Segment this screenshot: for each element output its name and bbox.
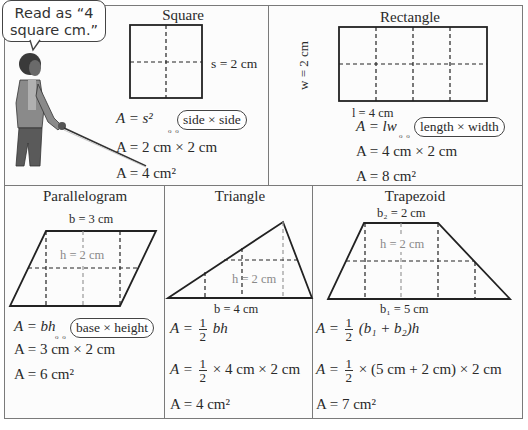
triangle-base-label: b = 4 cm — [214, 302, 258, 317]
trapezoid-substitution-prefix: A = — [316, 361, 339, 377]
one-half-fraction: 12 — [345, 316, 354, 343]
thought-dots-icon: o o — [168, 127, 180, 135]
trapezoid-formula-prefix: A = — [316, 320, 339, 336]
square-title: Square — [128, 7, 238, 24]
triangle-substitution: A = 12 × 4 cm × 2 cm — [170, 357, 300, 384]
rectangle-title: Rectangle — [340, 9, 480, 26]
one-half-fraction: 12 — [199, 316, 208, 343]
triangle-height-label: h = 2 cm — [232, 272, 276, 287]
bottom-column-divider-1 — [164, 185, 165, 419]
parallelogram-result: A = 6 cm² — [14, 366, 74, 383]
rectangle-result: A = 8 cm² — [356, 168, 416, 185]
square-side-label: s = 2 cm — [211, 56, 257, 72]
square-thought-cloud: side × side — [177, 110, 247, 130]
trapezoid-result: A = 7 cm² — [316, 396, 376, 413]
thought-dots-icon: o o — [399, 132, 411, 140]
parallelogram-substitution: A = 3 cm × 2 cm — [14, 341, 115, 358]
fraction-numerator: 1 — [199, 357, 208, 371]
trapezoid-title: Trapezoid — [350, 188, 480, 205]
triangle-substitution-suffix: × 4 cm × 2 cm — [213, 361, 300, 377]
speech-line-1: Read as “4 — [3, 5, 105, 22]
speech-bubble: Read as “4 square cm.” — [2, 0, 106, 42]
one-half-fraction: 12 — [345, 357, 354, 384]
trapezoid-formula: A = 12 (b₁ + b₂)h — [316, 316, 419, 343]
trapezoid-height-label: h = 2 cm — [380, 237, 424, 252]
rectangle-width-label: w = 2 cm — [296, 41, 312, 90]
rectangle-thought-cloud: length × width — [414, 117, 505, 137]
square-substitution: A = 2 cm × 2 cm — [116, 139, 217, 156]
rectangle-substitution: A = 4 cm × 2 cm — [356, 143, 457, 160]
trapezoid-formula-suffix: (b₁ + b₂)h — [359, 320, 420, 336]
thought-dots-icon: o o — [55, 333, 67, 341]
trapezoid-diagram — [326, 221, 516, 301]
row-divider — [4, 185, 523, 186]
parallelogram-base-label: b = 3 cm — [69, 212, 113, 227]
fraction-denominator: 2 — [199, 330, 208, 343]
trapezoid-substitution: A = 12 × (5 cm + 2 cm) × 2 cm — [316, 357, 502, 384]
rectangle-formula: A = lw — [356, 118, 397, 135]
parallelogram-title: Parallelogram — [20, 188, 150, 205]
triangle-formula-prefix: A = — [170, 320, 193, 336]
square-result: A = 4 cm² — [116, 165, 176, 182]
triangle-formula-suffix: bh — [213, 320, 228, 336]
trapezoid-top-base-label: b₂ = 2 cm — [377, 206, 426, 221]
top-column-divider — [268, 5, 269, 185]
fraction-numerator: 1 — [345, 357, 354, 371]
triangle-substitution-prefix: A = — [170, 361, 193, 377]
fraction-denominator: 2 — [199, 371, 208, 384]
triangle-result: A = 4 cm² — [170, 396, 230, 413]
square-formula: A = s² — [116, 110, 153, 127]
trapezoid-substitution-suffix: × (5 cm + 2 cm) × 2 cm — [359, 361, 502, 377]
triangle-title: Triangle — [175, 188, 305, 205]
parallelogram-thought-cloud: base × height — [70, 318, 154, 338]
trapezoid-bottom-base-label: b₁ = 5 cm — [380, 302, 429, 317]
square-diagram — [129, 24, 204, 99]
triangle-formula: A = 12 bh — [170, 316, 228, 343]
speech-line-2: square cm.” — [3, 22, 105, 39]
parallelogram-height-label: h = 2 cm — [60, 248, 104, 263]
parallelogram-formula: A = bh — [14, 318, 56, 335]
rectangle-diagram — [338, 26, 490, 104]
fraction-denominator: 2 — [345, 371, 354, 384]
one-half-fraction: 12 — [199, 357, 208, 384]
fraction-numerator: 1 — [199, 316, 208, 330]
parallelogram-diagram — [8, 226, 158, 308]
fraction-numerator: 1 — [345, 316, 354, 330]
fraction-denominator: 2 — [345, 330, 354, 343]
triangle-diagram — [166, 220, 316, 300]
